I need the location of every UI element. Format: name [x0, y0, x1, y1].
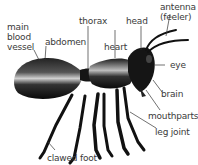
- label-heart: heart: [104, 42, 127, 52]
- label-clawed-foot: clawed foot: [47, 153, 97, 163]
- label-mouthparts: mouthparts: [148, 111, 198, 121]
- label-abdomen: abdomen: [45, 37, 86, 47]
- thorax-shape: [89, 58, 135, 88]
- label-eye: eye: [170, 60, 186, 70]
- label-head: head: [126, 16, 148, 26]
- head-shape: [128, 47, 155, 92]
- label-leg-joint: leg joint: [155, 127, 190, 137]
- antennae: [146, 30, 188, 52]
- label-thorax: thorax: [79, 16, 107, 26]
- ant-anatomy-diagram: main blood vessel abdomen thorax head an…: [0, 0, 198, 165]
- label-main-blood-vessel: main blood vessel: [7, 22, 34, 52]
- abdomen-shape: [14, 58, 82, 99]
- label-brain: brain: [161, 89, 183, 99]
- legs: [40, 88, 144, 163]
- label-antenna: antenna (feeler): [160, 2, 196, 22]
